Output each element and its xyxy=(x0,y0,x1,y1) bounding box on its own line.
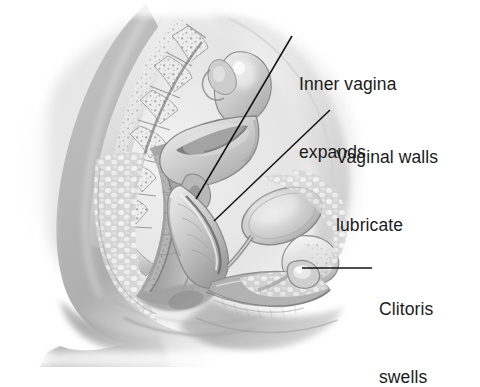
label-clitoris: Clitoris swells xyxy=(379,252,433,387)
label-clitoris-line1: Clitoris xyxy=(379,298,433,321)
label-inner-vagina-line1: Inner vagina xyxy=(299,73,397,96)
label-vaginal-walls-line2: lubricate xyxy=(336,214,438,237)
label-clitoris-line2: swells xyxy=(379,366,433,387)
label-vaginal-walls-line1: Vaginal walls xyxy=(336,146,438,169)
